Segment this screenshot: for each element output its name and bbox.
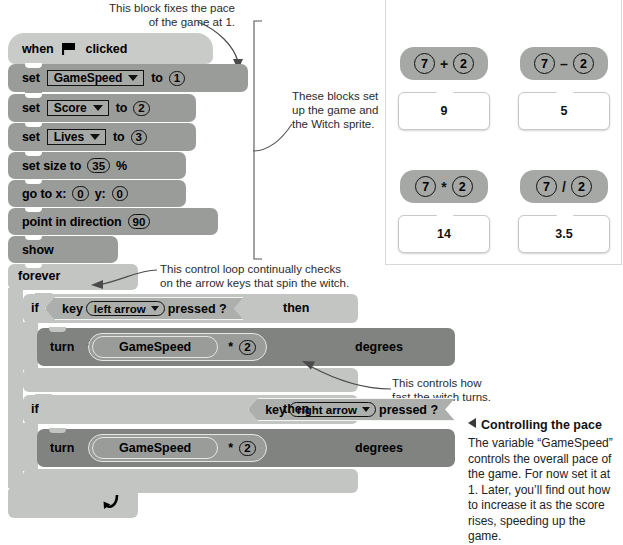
if-label: if: [31, 301, 39, 315]
reporter-gamespeed-2[interactable]: GameSpeed: [92, 437, 218, 459]
result-value-divide: 3.5: [555, 227, 572, 241]
caption-title-row: Controlling the pace: [468, 418, 618, 433]
to-label: to: [147, 71, 167, 85]
caption-controlling-the-pace: Controlling the pace The variable “GameS…: [468, 418, 618, 545]
degrees-label-2: degrees: [355, 441, 403, 455]
boolean-key-right-arrow-pressed[interactable]: key right arrow pressed ?: [248, 398, 455, 421]
block-show[interactable]: show: [8, 236, 118, 263]
key-label: key: [62, 302, 83, 316]
arrow-speed-note: [284, 350, 392, 392]
operator-block-divide[interactable]: 7 / 2: [520, 170, 608, 203]
set-label: set: [18, 71, 44, 85]
pressed-label: pressed ?: [168, 302, 227, 316]
result-bubble-multiply: 14: [398, 215, 490, 253]
value-input-score[interactable]: 2: [133, 101, 149, 116]
value-input-x[interactable]: 0: [72, 186, 88, 201]
result-bubble-add: 9: [398, 92, 490, 130]
operator-symbol-add: +: [440, 56, 448, 72]
variable-dropdown-lives[interactable]: Lives: [47, 129, 106, 145]
chevron-down-icon: [362, 407, 370, 412]
show-label: show: [18, 243, 58, 257]
operand-input-1[interactable]: 2: [239, 340, 255, 355]
variable-dropdown-gamespeed[interactable]: GameSpeed: [47, 70, 144, 86]
pressed-label: pressed ?: [379, 403, 438, 417]
caption-title: Controlling the pace: [481, 418, 602, 432]
chevron-down-icon: [90, 134, 100, 140]
caption-body: The variable “GameSpeed” controls the ov…: [468, 436, 618, 545]
set-size-label: set size to: [18, 159, 85, 173]
then-label-2: then: [283, 402, 309, 416]
result-bubble-subtract: 5: [518, 92, 610, 130]
if-label: if: [31, 402, 39, 416]
result-bubble-divide: 3.5: [518, 215, 610, 253]
key-name: left arrow: [94, 303, 146, 315]
set-label: set: [18, 101, 44, 115]
value-input-y[interactable]: 0: [112, 186, 128, 201]
when-label: when: [18, 42, 58, 56]
loop-arrow-icon: [101, 492, 123, 514]
operand-left-subtract[interactable]: 7: [534, 53, 555, 74]
forever-spine: [8, 288, 23, 488]
triangle-left-icon: [468, 418, 476, 428]
annotation-loop-note: This control loop continually checks on …: [160, 262, 390, 290]
value-input-gamespeed[interactable]: 1: [169, 71, 185, 86]
operator-block-subtract[interactable]: 7 – 2: [520, 47, 608, 80]
value-input-direction[interactable]: 90: [128, 214, 151, 229]
reporter-gamespeed-1[interactable]: GameSpeed: [92, 336, 218, 358]
block-go-to-xy[interactable]: go to x: 0 y: 0: [8, 180, 186, 207]
if-spine-2: [23, 423, 38, 471]
boolean-key-left-arrow-pressed[interactable]: key left arrow pressed ?: [45, 297, 244, 320]
variable-name: Score: [54, 101, 87, 115]
then-label-1: then: [283, 301, 309, 315]
operator-multiply-2[interactable]: GameSpeed * 2: [88, 434, 267, 462]
operand-right-multiply[interactable]: 2: [452, 176, 473, 197]
turn-label: turn: [50, 441, 74, 455]
leader-setup-note: [252, 120, 296, 152]
operand-left-add[interactable]: 7: [414, 53, 435, 74]
operand-left-multiply[interactable]: 7: [415, 176, 436, 197]
variable-dropdown-score[interactable]: Score: [47, 100, 109, 116]
operator-block-multiply[interactable]: 7 * 2: [400, 170, 488, 203]
operator-multiply-1[interactable]: GameSpeed * 2: [88, 333, 267, 361]
go-to-x-label: go to x:: [18, 187, 70, 201]
operand-right-add[interactable]: 2: [453, 53, 474, 74]
operator-symbol-multiply: *: [441, 179, 446, 195]
block-when-flag-clicked[interactable]: when clicked: [8, 33, 213, 64]
block-set-lives[interactable]: set Lives to 3: [8, 123, 196, 151]
block-set-score[interactable]: set Score to 2: [8, 94, 196, 122]
chevron-down-icon: [93, 105, 103, 111]
operator-symbol-subtract: –: [560, 56, 568, 72]
chevron-down-icon: [151, 306, 159, 311]
block-set-gamespeed[interactable]: set GameSpeed to 1: [8, 64, 248, 92]
value-input-lives[interactable]: 3: [131, 130, 147, 145]
operator-symbol-2: *: [228, 441, 233, 455]
variable-name: Lives: [54, 130, 84, 144]
set-label: set: [18, 130, 44, 144]
forever-label: forever: [18, 269, 60, 283]
operator-symbol-1: *: [228, 340, 233, 354]
operand-input-2[interactable]: 2: [239, 441, 255, 456]
percent-label: %: [112, 159, 131, 173]
key-dropdown-left-arrow[interactable]: left arrow: [86, 301, 165, 316]
operator-block-add[interactable]: 7 + 2: [400, 47, 488, 80]
if-spine-1: [23, 322, 38, 370]
green-flag-icon: [62, 42, 77, 56]
block-point-in-direction[interactable]: point in direction 90: [8, 208, 218, 235]
to-label: to: [109, 130, 129, 144]
operand-left-divide[interactable]: 7: [536, 176, 557, 197]
y-label: y:: [91, 187, 110, 201]
operator-symbol-divide: /: [562, 179, 566, 195]
block-set-size[interactable]: set size to 35 %: [8, 152, 186, 179]
if-footer-2: [23, 469, 358, 493]
annotation-setup-note: These blocks set up the game and the Wit…: [292, 89, 397, 131]
operand-right-subtract[interactable]: 2: [573, 53, 594, 74]
result-value-multiply: 14: [437, 227, 451, 241]
clicked-label: clicked: [82, 42, 132, 56]
turn-label: turn: [50, 340, 74, 354]
operand-right-divide[interactable]: 2: [571, 176, 592, 197]
result-value-subtract: 5: [561, 104, 568, 118]
value-input-size[interactable]: 35: [87, 158, 110, 173]
variable-name: GameSpeed: [54, 71, 122, 85]
to-label: to: [112, 101, 132, 115]
result-value-add: 9: [441, 104, 448, 118]
